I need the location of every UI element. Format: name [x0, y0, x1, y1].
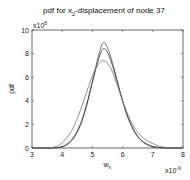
- y-tick-label: 6: [25, 74, 29, 81]
- y-tick-label: 0: [25, 145, 29, 152]
- x-tick-label: 7: [151, 151, 155, 158]
- x-tick-label: 4: [60, 151, 64, 158]
- y-exponent-label: x108: [33, 20, 47, 29]
- y-tick-label: 2: [25, 121, 29, 128]
- x-tick-label: 5: [90, 151, 94, 158]
- y-tick-label: 10: [21, 27, 29, 34]
- x-exponent-label: x10-9: [165, 165, 181, 174]
- x-axis-label: wx: [103, 161, 112, 170]
- x-tick-label: 3: [30, 151, 34, 158]
- x-tick-label: 8: [181, 151, 185, 158]
- y-axis-label: pdf: [8, 84, 16, 94]
- y-tick-label: 8: [25, 50, 29, 57]
- y-tick-label: 4: [25, 97, 29, 104]
- x-tick-label: 6: [121, 151, 125, 158]
- chart-plot: 3456780246810 x108x10-9wxpdf: [0, 0, 190, 180]
